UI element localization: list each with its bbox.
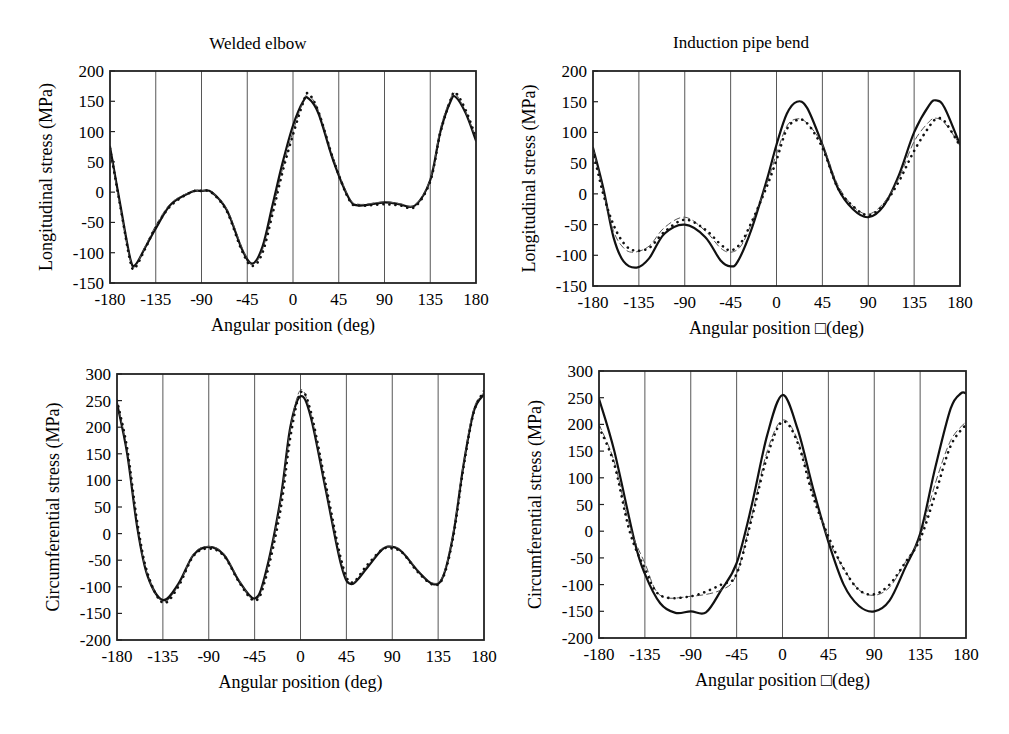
y-tick-label: 0 [96, 183, 105, 202]
y-axis-label: Circumferential stress (MPa) [525, 400, 546, 609]
y-tick-label: 50 [87, 153, 104, 172]
y-tick-label: 150 [79, 92, 105, 111]
column-title-welded: Welded elbow [209, 34, 307, 53]
y-tick-label: 50 [570, 154, 587, 173]
x-tick-label: 135 [425, 647, 451, 666]
x-tick-label: 45 [338, 647, 355, 666]
y-axis-label: Longitudinal stress (MPa) [36, 83, 57, 271]
y-tick-label: 100 [562, 123, 588, 142]
x-tick-label: 180 [953, 645, 979, 664]
panel-induction-longitudinal: -150-100-50050100150200-180-135-90-45045… [519, 62, 973, 339]
x-tick-label: 0 [289, 290, 298, 309]
y-tick-label: 300 [568, 362, 594, 381]
x-axis-label: Angular position □(deg) [689, 318, 864, 339]
x-tick-label: -135 [147, 647, 178, 666]
y-tick-label: -50 [570, 549, 593, 568]
y-tick-label: -50 [88, 551, 111, 570]
x-tick-label: -135 [629, 645, 660, 664]
y-tick-label: 150 [562, 93, 588, 112]
y-tick-label: 100 [86, 471, 112, 490]
x-tick-label: 90 [376, 290, 393, 309]
y-tick-label: 200 [568, 415, 594, 434]
figure-canvas: Welded elbow Induction pipe bend -150-10… [0, 0, 1009, 734]
x-tick-label: 90 [384, 647, 401, 666]
x-tick-label: -180 [94, 290, 125, 309]
x-tick-label: 0 [778, 645, 787, 664]
x-axis-label: Angular position (deg) [219, 672, 383, 693]
y-tick-label: 0 [585, 522, 594, 541]
x-tick-label: -180 [577, 293, 608, 312]
y-tick-label: 250 [568, 389, 594, 408]
panel-induction-circumferential: -200-150-100-50050100150200250300-180-13… [525, 362, 979, 691]
x-tick-label: -90 [190, 290, 213, 309]
x-axis-label: Angular position □(deg) [695, 670, 870, 691]
y-tick-label: 0 [579, 185, 588, 204]
x-tick-label: 135 [418, 290, 444, 309]
y-tick-label: 250 [86, 392, 112, 411]
x-tick-label: 90 [866, 645, 883, 664]
y-tick-label: 0 [103, 525, 112, 544]
panel-welded-longitudinal: -150-100-50050100150200-180-135-90-45045… [36, 62, 489, 336]
y-tick-label: -50 [81, 213, 104, 232]
x-tick-label: 135 [901, 293, 927, 312]
x-tick-label: -90 [673, 293, 696, 312]
y-tick-label: 300 [86, 365, 112, 384]
y-tick-label: -150 [80, 604, 111, 623]
y-tick-label: 200 [562, 62, 588, 81]
x-tick-label: -135 [623, 293, 654, 312]
y-tick-label: -100 [73, 244, 104, 263]
x-tick-label: 45 [814, 293, 831, 312]
x-tick-label: -45 [725, 645, 748, 664]
x-tick-label: -135 [140, 290, 171, 309]
x-axis-label: Angular position (deg) [211, 315, 375, 336]
y-tick-label: -100 [562, 576, 593, 595]
x-tick-label: -180 [583, 645, 614, 664]
x-tick-label: -45 [719, 293, 742, 312]
y-tick-label: 200 [79, 62, 105, 81]
y-tick-label: 150 [568, 442, 594, 461]
y-tick-label: 100 [79, 123, 105, 142]
y-tick-label: 200 [86, 418, 112, 437]
x-tick-label: -180 [101, 647, 132, 666]
x-tick-label: -90 [197, 647, 220, 666]
x-tick-label: -45 [236, 290, 259, 309]
y-axis-label: Longitudinal stress (MPa) [519, 85, 540, 273]
y-tick-label: -100 [80, 578, 111, 597]
y-axis-label: Circumferential stress (MPa) [43, 403, 64, 612]
y-tick-label: -100 [556, 246, 587, 265]
y-tick-label: 50 [94, 498, 111, 517]
x-tick-label: -90 [679, 645, 702, 664]
x-tick-label: 180 [463, 290, 489, 309]
y-tick-label: -150 [562, 602, 593, 621]
x-tick-label: 135 [907, 645, 933, 664]
x-tick-label: 180 [471, 647, 497, 666]
x-tick-label: 0 [772, 293, 781, 312]
y-tick-label: 100 [568, 469, 594, 488]
x-tick-label: 0 [296, 647, 305, 666]
column-title-induction: Induction pipe bend [673, 33, 809, 52]
y-tick-label: 150 [86, 445, 112, 464]
x-tick-label: 180 [947, 293, 973, 312]
y-tick-label: 50 [576, 496, 593, 515]
x-tick-label: 45 [330, 290, 347, 309]
y-tick-label: -50 [564, 216, 587, 235]
x-tick-label: -45 [243, 647, 266, 666]
x-tick-label: 90 [860, 293, 877, 312]
x-tick-label: 45 [820, 645, 837, 664]
panel-welded-circumferential: -200-150-100-50050100150200250300-180-13… [43, 365, 497, 693]
